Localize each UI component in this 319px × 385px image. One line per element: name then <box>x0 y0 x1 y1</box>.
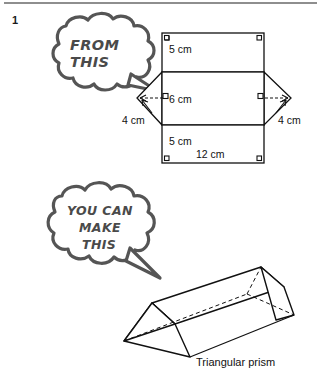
bubble-line-2: THIS <box>70 54 109 70</box>
net-label-bottom-rect: 5 cm <box>169 135 192 147</box>
triangular-prism-figure: Triangular prism <box>124 267 294 368</box>
worksheet-page: 1 FROM THIS <box>0 0 319 385</box>
speech-bubble-from-this: FROM THIS <box>53 13 157 91</box>
net-label-right-flap: 4 cm <box>278 114 301 126</box>
net-label-left-flap: 4 cm <box>122 114 145 126</box>
net-label-base-width: 12 cm <box>196 148 225 160</box>
bubble2-line-3: THIS <box>82 237 116 252</box>
illustration-layer: FROM THIS <box>0 0 319 385</box>
speech-bubble-you-can-make-this: YOU CAN MAKE THIS <box>48 183 160 278</box>
prism-edge-bottom <box>190 315 294 357</box>
net-label-middle-rect: 6 cm <box>169 93 192 105</box>
bubble-line-1: FROM <box>70 37 120 53</box>
prism-caption: Triangular prism <box>196 356 275 368</box>
bubble2-line-2: MAKE <box>79 220 121 235</box>
net-label-top-rect: 5 cm <box>169 43 192 55</box>
bubble2-line-1: YOU CAN <box>67 203 133 218</box>
bubble-tail-2 <box>126 248 160 278</box>
